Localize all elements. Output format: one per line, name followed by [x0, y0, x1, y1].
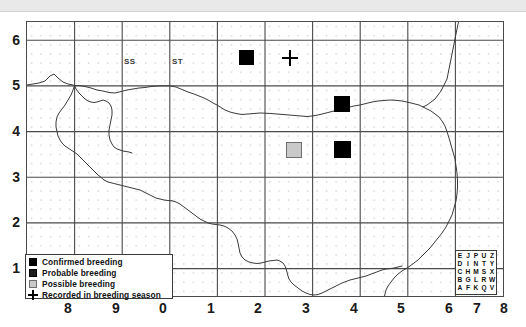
letter-key-cell: X: [488, 268, 496, 276]
letter-key-cell: U: [480, 252, 488, 260]
letter-key-cell: M: [472, 268, 480, 276]
distribution-map-page: SS ST 6 5 4 3 2 1 8 9 0 1 2 3 4 5 6 7 8 …: [0, 0, 526, 327]
grid-square-label-st: ST: [172, 57, 183, 66]
x-axis-tick-7: 5: [381, 300, 421, 316]
x-axis-tick-2: 0: [143, 300, 183, 316]
record-marker-confirmed[interactable]: [239, 50, 254, 65]
record-marker-recorded[interactable]: [282, 50, 298, 66]
x-axis-tick-6: 4: [334, 300, 374, 316]
legend-swatch-possible-icon: [29, 280, 37, 288]
x-axis-tick-10: 8: [484, 300, 524, 316]
record-marker-confirmed[interactable]: [334, 96, 350, 112]
legend-label-recorded: Recorded in breeding season: [42, 291, 161, 300]
letter-key-row: A F K Q V: [456, 284, 496, 292]
legend: Confirmed breeding Probable breeding Pos…: [25, 254, 173, 299]
y-axis-tick-2: 2: [2, 214, 20, 230]
letter-key-cell: Y: [488, 260, 496, 268]
letter-key-row: D I N T Y: [456, 260, 496, 268]
y-axis-tick-3: 3: [2, 169, 20, 185]
letter-key-cell: I: [464, 260, 472, 268]
letter-key-cell: Q: [480, 284, 488, 292]
letter-key-cell: K: [472, 284, 480, 292]
grid-square-label-ss: SS: [124, 57, 135, 66]
letter-key-cell: W: [488, 276, 496, 284]
grid-letter-key: E J P U Z D I N T Y C H M S X B G L R W: [455, 250, 497, 295]
x-axis-tick-3: 1: [191, 300, 231, 316]
letter-key-cell: V: [488, 284, 496, 292]
letter-key-cell: G: [464, 276, 472, 284]
letter-key-cell: J: [464, 252, 472, 260]
letter-key-cell: R: [480, 276, 488, 284]
legend-item-recorded: Recorded in breeding season: [29, 290, 169, 300]
x-axis-tick-4: 2: [238, 300, 278, 316]
legend-swatch-probable-icon: [29, 269, 37, 277]
legend-item-possible: Possible breeding: [29, 279, 169, 289]
letter-key-cell: B: [456, 276, 464, 284]
letter-key-row: E J P U Z: [456, 252, 496, 260]
letter-key-cell: C: [456, 268, 464, 276]
x-axis-tick-1: 9: [96, 300, 136, 316]
y-axis-tick-5: 5: [2, 77, 20, 93]
letter-key-cell: T: [480, 260, 488, 268]
record-marker-possible[interactable]: [286, 142, 302, 158]
letter-key-cell: A: [456, 284, 464, 292]
letter-key-cell: N: [472, 260, 480, 268]
letter-key-cell: P: [472, 252, 480, 260]
top-banner: [0, 0, 526, 11]
letter-key-cell: Z: [488, 252, 496, 260]
x-axis-tick-5: 3: [286, 300, 326, 316]
letter-key-cell: D: [456, 260, 464, 268]
letter-key-cell: F: [464, 284, 472, 292]
letter-key-cell: E: [456, 252, 464, 260]
record-marker-confirmed[interactable]: [334, 141, 351, 158]
letter-key-cell: H: [464, 268, 472, 276]
legend-item-confirmed: Confirmed breeding: [29, 257, 169, 267]
legend-swatch-cross-icon: [29, 291, 37, 299]
legend-item-probable: Probable breeding: [29, 268, 169, 278]
letter-key-row: B G L R W: [456, 276, 496, 284]
letter-key-cell: S: [480, 268, 488, 276]
legend-label-probable: Probable breeding: [42, 269, 117, 278]
letter-key-cell: L: [472, 276, 480, 284]
y-axis-tick-6: 6: [2, 32, 20, 48]
x-axis-tick-0: 8: [48, 300, 88, 316]
legend-label-possible: Possible breeding: [42, 280, 115, 289]
y-axis-tick-1: 1: [2, 260, 20, 276]
y-axis-tick-4: 4: [2, 123, 20, 139]
letter-key-row: C H M S X: [456, 268, 496, 276]
legend-swatch-confirmed-icon: [29, 258, 37, 266]
legend-label-confirmed: Confirmed breeding: [42, 258, 123, 267]
